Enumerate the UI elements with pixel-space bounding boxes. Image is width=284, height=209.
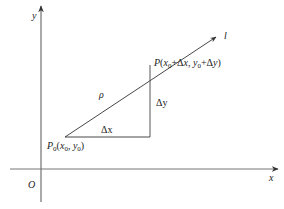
diagram-canvas [0, 0, 284, 209]
point-p0-label: P0(x0, y0) [47, 141, 84, 151]
point-p-label: P(x0+Δx, y0+Δy) [154, 58, 221, 68]
ray-label: l [224, 31, 227, 41]
x-axis-label: x [269, 173, 273, 183]
y-axis-label: y [32, 11, 36, 21]
delta-x-label: Δx [101, 125, 112, 135]
origin-label: O [28, 180, 35, 190]
ray-l [65, 37, 216, 137]
rho-label: ρ [99, 90, 104, 100]
delta-y-label: Δy [156, 98, 167, 108]
